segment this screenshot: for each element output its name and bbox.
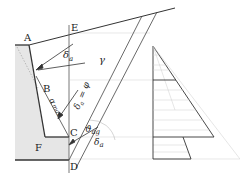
label-B: B bbox=[43, 83, 50, 94]
pressure-diagram bbox=[153, 46, 240, 159]
wall-body bbox=[15, 45, 69, 160]
label-C: C bbox=[70, 127, 78, 138]
label-F: F bbox=[35, 142, 42, 153]
label-gamma: γ bbox=[99, 54, 105, 65]
label-E: E bbox=[71, 22, 78, 33]
label-D: D bbox=[70, 161, 78, 172]
label-delta-eq-phi: δa = φ bbox=[72, 80, 93, 111]
earth-pressure-diagram: A E γ δa B δa = φ αmax C ϑag δa F D bbox=[0, 0, 240, 178]
backfill-surface bbox=[29, 8, 175, 45]
label-A: A bbox=[23, 32, 32, 43]
label-delta-a-bottom: δa bbox=[94, 137, 104, 149]
label-delta-a-top: δa bbox=[63, 49, 73, 63]
